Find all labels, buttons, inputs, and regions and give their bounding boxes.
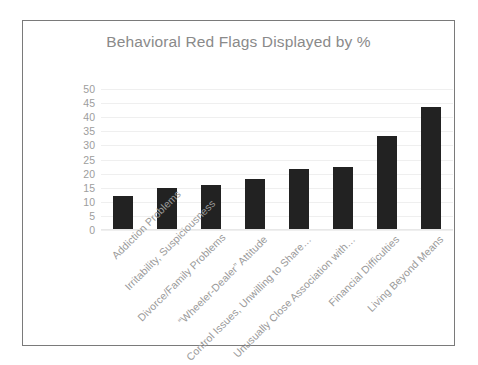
x-axis-line <box>101 229 453 230</box>
x-axis-tick-label: Divorce/Family Problems <box>135 233 226 324</box>
chart-frame: Behavioral Red Flags Displayed by % 5045… <box>22 20 455 346</box>
y-axis-tick-label: 20 <box>69 168 95 180</box>
bar-slot <box>321 89 365 230</box>
y-axis-tick-label: 50 <box>69 83 95 95</box>
bar[interactable] <box>245 179 265 230</box>
bar[interactable] <box>289 169 309 230</box>
y-axis-tick-label: 30 <box>69 139 95 151</box>
bar[interactable] <box>377 136 397 230</box>
y-axis-tick-label: 5 <box>69 210 95 222</box>
y-axis-tick-label: 40 <box>69 111 95 123</box>
bar[interactable] <box>421 107 441 230</box>
y-axis-tick-label: 0 <box>69 224 95 236</box>
y-axis-tick-label: 35 <box>69 125 95 137</box>
x-axis-labels: Addiction ProblemsIrritability, Suspicio… <box>101 233 453 353</box>
y-axis-tick-label: 45 <box>69 97 95 109</box>
bar-slot <box>409 89 453 230</box>
bar-slot <box>101 89 145 230</box>
bar-slot <box>233 89 277 230</box>
x-axis-tick-label: Addiction Problems <box>109 233 137 261</box>
chart-title: Behavioral Red Flags Displayed by % <box>23 33 454 51</box>
bar-slot <box>277 89 321 230</box>
y-axis-tick-label: 15 <box>69 182 95 194</box>
bar[interactable] <box>333 167 353 230</box>
gridline <box>101 230 453 231</box>
bar[interactable] <box>113 196 133 230</box>
bar-slot <box>365 89 409 230</box>
y-axis-tick-label: 10 <box>69 196 95 208</box>
y-axis-tick-label: 25 <box>69 154 95 166</box>
